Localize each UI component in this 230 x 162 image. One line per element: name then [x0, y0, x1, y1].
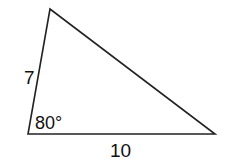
triangle-diagram: 7 80° 10	[0, 0, 230, 162]
angle-label: 80°	[35, 113, 62, 133]
side-label-bottom: 10	[110, 140, 131, 161]
side-label-left: 7	[24, 67, 35, 88]
